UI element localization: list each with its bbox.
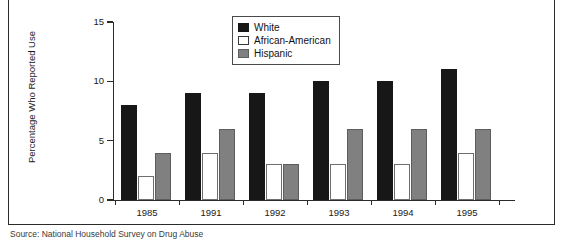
y-tick-label: 10 — [64, 76, 104, 86]
bar — [475, 129, 491, 200]
x-tick-label: 1993 — [309, 207, 369, 218]
x-tick-label: 1992 — [245, 207, 305, 218]
figure: 051015 198519911992199319941995 Percenta… — [0, 0, 562, 239]
bar — [330, 164, 346, 200]
x-tick-mark — [499, 200, 500, 205]
y-tick-label: 0 — [64, 195, 104, 205]
bar — [377, 81, 393, 200]
x-tick-label: 1985 — [117, 207, 177, 218]
x-tick-mark — [435, 200, 436, 205]
y-tick-label-wrap: 10 — [60, 76, 104, 86]
bar — [185, 93, 201, 200]
x-tick-label: 1991 — [181, 207, 241, 218]
x-tick-mark — [307, 200, 308, 205]
y-tick-mark — [107, 140, 113, 141]
y-tick-label: 5 — [64, 136, 104, 146]
legend-swatch-icon — [238, 49, 249, 58]
x-tick-label: 1995 — [437, 207, 497, 218]
y-tick-mark — [107, 81, 113, 82]
y-tick-mark — [107, 21, 113, 22]
legend-swatch-icon — [238, 36, 249, 45]
source-caption: Source: National Household Survey on Dru… — [10, 229, 203, 239]
y-tick-mark — [107, 199, 113, 200]
x-tick-label: 1994 — [373, 207, 433, 218]
bar — [121, 105, 137, 200]
y-tick-label: 15 — [64, 17, 104, 27]
y-tick-label-wrap: 15 — [60, 17, 104, 27]
bar — [249, 93, 265, 200]
bar — [138, 176, 154, 200]
x-tick-mark — [371, 200, 372, 205]
bar — [394, 164, 410, 200]
x-axis-line — [113, 200, 515, 201]
legend-item: White — [238, 21, 331, 34]
legend-swatch-icon — [238, 23, 249, 32]
bar — [219, 129, 235, 200]
y-axis-line — [113, 22, 114, 200]
bar — [202, 153, 218, 200]
legend-item: African-American — [238, 34, 331, 47]
bar — [441, 69, 457, 200]
bar — [155, 153, 171, 200]
bar — [458, 153, 474, 200]
legend-label: Hispanic — [254, 48, 292, 59]
bar — [411, 129, 427, 200]
legend-label: African-American — [254, 35, 331, 46]
x-tick-mark — [179, 200, 180, 205]
x-tick-mark — [115, 200, 116, 205]
y-tick-label-wrap: 0 — [60, 195, 104, 205]
bar — [313, 81, 329, 200]
bar — [283, 164, 299, 200]
bar — [347, 129, 363, 200]
x-tick-mark — [243, 200, 244, 205]
chart-legend: WhiteAfrican-AmericanHispanic — [232, 16, 340, 65]
legend-item: Hispanic — [238, 47, 331, 60]
y-tick-label-wrap: 5 — [60, 136, 104, 146]
bar — [266, 164, 282, 200]
y-axis-label: Percentage Who Reported Use — [27, 7, 37, 187]
legend-label: White — [254, 22, 280, 33]
